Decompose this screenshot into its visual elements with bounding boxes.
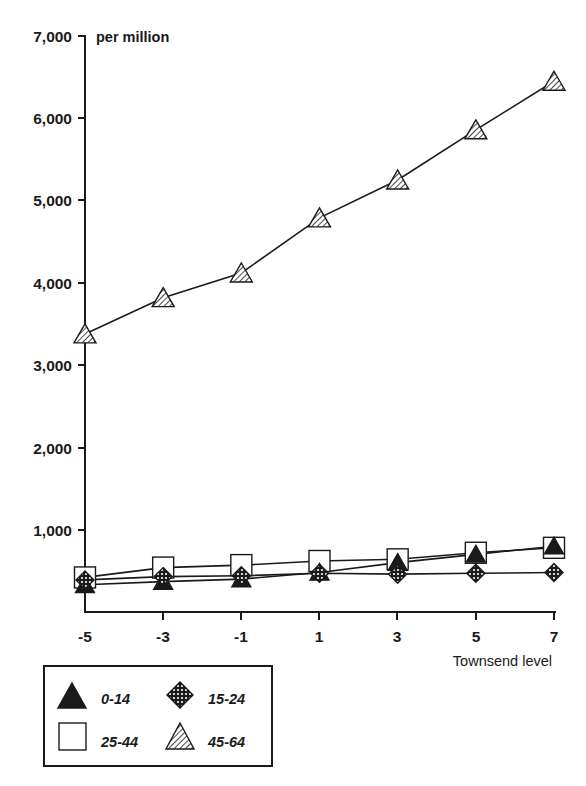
data-point-marker bbox=[74, 324, 96, 343]
y-tick-label-4000: 4,000 bbox=[33, 275, 72, 292]
series-markers-15-24 bbox=[76, 564, 563, 589]
chart-figure: 7,000 6,000 5,000 4,000 3,000 2,000 1,00… bbox=[0, 0, 586, 786]
y-tick-label-3000: 3,000 bbox=[33, 357, 72, 374]
legend: 0-14 15-24 25-44 45-64 bbox=[44, 666, 272, 766]
data-point-marker bbox=[467, 564, 485, 582]
legend-label-15-24: 15-24 bbox=[208, 691, 245, 707]
legend-label-0-14: 0-14 bbox=[101, 691, 130, 707]
x-tick-label--3: -3 bbox=[156, 628, 170, 645]
y-axis-ticks: 7,000 6,000 5,000 4,000 3,000 2,000 1,00… bbox=[33, 28, 85, 539]
legend-border bbox=[44, 666, 272, 766]
legend-marker-25-44 bbox=[59, 723, 86, 750]
series-markers-45-64 bbox=[74, 71, 565, 343]
x-tick-label--5: -5 bbox=[78, 628, 92, 645]
line-chart: 7,000 6,000 5,000 4,000 3,000 2,000 1,00… bbox=[0, 0, 586, 786]
y-tick-label-1000: 1,000 bbox=[33, 522, 72, 539]
x-tick-label-3: 3 bbox=[393, 628, 402, 645]
x-tick-label-7: 7 bbox=[550, 628, 559, 645]
y-tick-label-2000: 2,000 bbox=[33, 440, 72, 457]
y-tick-label-7000: 7,000 bbox=[33, 28, 72, 45]
y-axis-unit-label: per million bbox=[96, 29, 169, 45]
legend-label-25-44: 25-44 bbox=[100, 734, 138, 750]
legend-marker-0-14 bbox=[58, 683, 86, 708]
y-tick-label-6000: 6,000 bbox=[33, 110, 72, 127]
legend-marker-15-24 bbox=[167, 682, 193, 708]
data-point-marker bbox=[230, 263, 252, 282]
axes bbox=[85, 36, 555, 612]
x-tick-label-5: 5 bbox=[472, 628, 481, 645]
x-axis-ticks: -5 -3 -1 1 3 5 7 bbox=[78, 602, 558, 645]
legend-label-45-64: 45-64 bbox=[207, 734, 245, 750]
data-point-marker bbox=[545, 564, 563, 582]
x-axis-title: Townsend level bbox=[453, 653, 552, 669]
data-point-marker bbox=[309, 208, 331, 227]
data-point-marker bbox=[387, 170, 409, 189]
x-tick-label--1: -1 bbox=[234, 628, 248, 645]
data-point-marker bbox=[465, 120, 487, 139]
data-series-layer bbox=[74, 71, 565, 592]
data-point-marker bbox=[543, 71, 565, 90]
data-point-marker bbox=[152, 288, 174, 307]
y-tick-label-5000: 5,000 bbox=[33, 192, 72, 209]
x-tick-label-1: 1 bbox=[315, 628, 324, 645]
legend-marker-45-64 bbox=[166, 723, 194, 749]
